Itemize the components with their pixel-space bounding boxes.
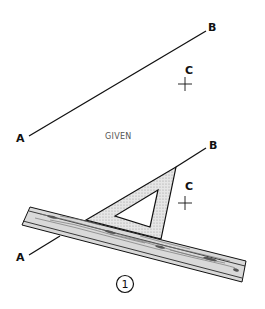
given-panel: A B C GIVEN [16, 21, 216, 145]
step-point-c-cross [178, 196, 192, 210]
step-label-a: A [16, 251, 25, 264]
given-line-ab [29, 31, 206, 136]
step-label-b: B [209, 139, 217, 152]
given-caption: GIVEN [105, 132, 132, 141]
step-line-ab-upper [176, 148, 206, 167]
diagram-canvas: A B C GIVEN A B C [0, 0, 265, 309]
given-point-c-cross [178, 77, 192, 91]
step-number: 1 [122, 278, 129, 291]
step-line-ab-lower [29, 236, 60, 255]
straightedge-tool [22, 207, 246, 282]
given-label-a: A [16, 132, 25, 145]
step-label-c: C [185, 180, 193, 193]
step-panel: A B C [16, 139, 246, 293]
given-label-c: C [185, 64, 193, 77]
step-number-badge: 1 [117, 276, 134, 293]
given-label-b: B [208, 21, 216, 34]
